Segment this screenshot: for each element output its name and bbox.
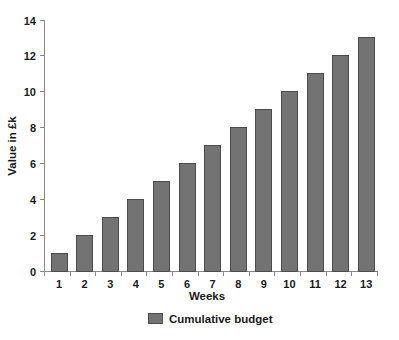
x-tick-label: 9 xyxy=(261,278,267,290)
y-tick-label: 12 xyxy=(24,50,36,62)
x-tick-label: 12 xyxy=(334,278,346,290)
x-tick-label: 10 xyxy=(283,278,295,290)
x-tick-label: 4 xyxy=(133,278,140,290)
bar-week-4[interactable] xyxy=(128,200,144,272)
x-tick-label: 13 xyxy=(360,278,372,290)
x-axis-title: Weeks xyxy=(189,290,225,302)
x-tick-label: 5 xyxy=(158,278,164,290)
y-tick-label: 6 xyxy=(30,158,36,170)
y-axis-title: Value in £k xyxy=(6,116,18,176)
x-tick-label: 8 xyxy=(235,278,241,290)
bar-week-12[interactable] xyxy=(333,56,349,272)
bar-week-8[interactable] xyxy=(230,128,246,272)
bar-week-5[interactable] xyxy=(153,182,169,272)
bar-week-3[interactable] xyxy=(102,218,118,272)
x-tick-label: 11 xyxy=(309,278,321,290)
bar-week-11[interactable] xyxy=(307,74,323,272)
y-tick-label: 2 xyxy=(30,230,36,242)
bar-chart-figure: 0 2 4 6 8 10 12 14 Value in £k xyxy=(0,0,399,340)
bar-week-10[interactable] xyxy=(281,92,297,272)
bar-week-1[interactable] xyxy=(51,254,67,272)
x-tick-label: 6 xyxy=(184,278,190,290)
x-tick-label: 2 xyxy=(82,278,88,290)
x-tick-label: 3 xyxy=(107,278,113,290)
legend-label-cumulative-budget: Cumulative budget xyxy=(169,313,273,325)
bar-week-7[interactable] xyxy=(205,146,221,272)
legend-swatch-cumulative-budget[interactable] xyxy=(149,314,163,324)
bar-week-2[interactable] xyxy=(77,236,93,272)
y-tick-label: 4 xyxy=(30,194,37,206)
y-tick-label: 8 xyxy=(30,122,36,134)
bar-week-6[interactable] xyxy=(179,164,195,272)
y-tick-label: 0 xyxy=(30,266,36,278)
bar-week-9[interactable] xyxy=(256,110,272,272)
chart-canvas: 0 2 4 6 8 10 12 14 Value in £k xyxy=(0,0,399,340)
bar-week-13[interactable] xyxy=(358,38,374,272)
x-tick-label: 1 xyxy=(56,278,62,290)
y-tick-label: 10 xyxy=(24,86,36,98)
y-tick-label: 14 xyxy=(24,15,37,27)
x-tick-label: 7 xyxy=(210,278,216,290)
